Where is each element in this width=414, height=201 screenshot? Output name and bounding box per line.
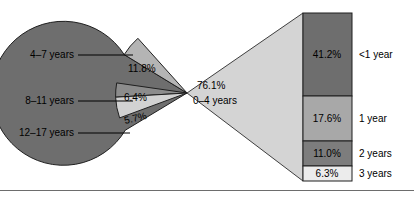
bar-label-3-years: 3 years: [359, 168, 392, 179]
bar-label-2-years: 2 years: [359, 148, 392, 159]
slice-pct-8-11-years: 6.4%: [124, 92, 147, 103]
figure-container: 4–7 years 8–11 years 12–17 years 11.8% 6…: [0, 0, 414, 201]
bar-pct-2-years: 11.0%: [313, 148, 341, 159]
figure-bottom-rule: [0, 190, 414, 191]
bar-pct-3-years: 6.3%: [316, 168, 339, 179]
pie-center-pct: 76.1%: [197, 80, 225, 91]
bar-pct-1-year: 17.6%: [313, 113, 341, 124]
bar-label-under-1-year: <1 year: [359, 49, 393, 60]
slice-pct-4-7-years: 11.8%: [128, 63, 156, 74]
callout-label-12-17-years: 12–17 years: [19, 127, 74, 138]
callout-label-8-11-years: 8–11 years: [25, 95, 74, 106]
bar-pct-under-1-year: 41.2%: [313, 49, 341, 60]
bar-label-1-year: 1 year: [359, 113, 387, 124]
pie-and-bar-chart: 4–7 years 8–11 years 12–17 years 11.8% 6…: [0, 0, 414, 201]
callout-label-4-7-years: 4–7 years: [30, 49, 74, 60]
pie-center-category: 0–4 years: [193, 95, 237, 106]
